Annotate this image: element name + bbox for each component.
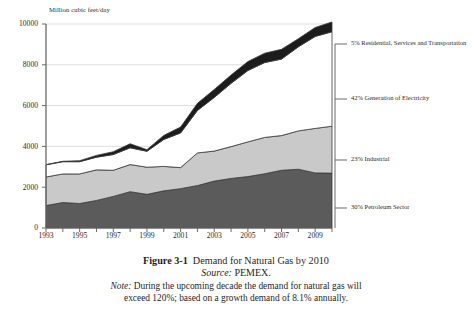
caption-title-line: Figure 3-1 Demand for Natural Gas by 201… [0,255,472,267]
x-tick-label-1995: 1995 [64,231,96,240]
x-tick-label-1997: 1997 [97,231,129,240]
x-tick-label-1999: 1999 [131,231,163,240]
note-label: Note: [111,281,132,291]
figure-caption: Figure 3-1 Demand for Natural Gas by 201… [0,255,472,304]
y-tick-label-6000: 6000 [4,101,38,110]
figure-container: Million cubic feet/day 02000400060008000… [0,0,472,317]
figure-number: Figure 3-1 [143,255,188,266]
caption-note-line-1: Note: During the upcoming decade the dem… [0,280,472,292]
x-tick-label-2003: 2003 [198,231,230,240]
x-tick-label-2009: 2009 [299,231,331,240]
caption-note-line-2: exceed 120%; based on a growth demand of… [0,292,472,304]
x-tick-label-2005: 2005 [232,231,264,240]
source-value: PEMEX. [234,267,270,278]
y-tick-label-4000: 4000 [4,142,38,151]
stacked-area-chart [0,0,472,252]
y-tick-label-2000: 2000 [4,183,38,192]
figure-title: Demand for Natural Gas by 2010 [193,255,329,266]
legend-item-petroleum: 30% Petroleum Sector [351,203,469,212]
caption-source-line: Source: PEMEX. [0,267,472,279]
x-tick-label-2007: 2007 [266,231,298,240]
legend-leader-lines [335,44,347,228]
legend-item-industrial: 23% Industrial [351,155,469,164]
y-tick-label-10000: 10000 [4,19,38,28]
note-text-1: During the upcoming decade the demand fo… [134,281,362,291]
legend-item-residential: 5% Residential, Services and Transportat… [351,39,469,48]
area-series-group [46,22,332,228]
x-tick-label-2001: 2001 [165,231,197,240]
legend-item-electricity: 42% Generation of Electricity [351,94,469,103]
source-label: Source: [201,267,232,278]
note-text-2: exceed 120%; based on a growth demand of… [124,293,348,303]
chart-area: Million cubic feet/day 02000400060008000… [0,0,472,252]
x-tick-label-1993: 1993 [30,231,62,240]
y-tick-label-8000: 8000 [4,60,38,69]
